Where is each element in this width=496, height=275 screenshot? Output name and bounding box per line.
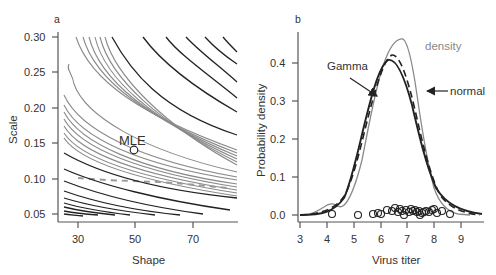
- density-annotation: density: [425, 40, 462, 52]
- mle-label: MLE: [119, 133, 146, 148]
- b-y-ticks: [292, 63, 298, 215]
- b-y-label: Probability density: [255, 83, 267, 177]
- a-contours-inner: [64, 37, 237, 196]
- a-y-label: Scale: [7, 115, 19, 144]
- a-ytick: 0.20: [24, 102, 45, 114]
- a-ytick: 0.25: [24, 66, 45, 78]
- a-contours-outer-upper: [112, 37, 237, 135]
- a-y-ticks: [52, 37, 58, 214]
- b-xtick: 3: [297, 233, 303, 245]
- b-xtick: 5: [351, 233, 357, 245]
- a-x-ticks: [78, 222, 193, 228]
- normal-curve: [300, 55, 480, 215]
- a-xtick: 30: [72, 233, 84, 245]
- panel-b-label: b: [295, 13, 301, 25]
- a-xtick: 50: [129, 233, 141, 245]
- mle-marker: [130, 146, 138, 154]
- b-x-ticks: [300, 222, 461, 228]
- b-xtick: 9: [458, 233, 464, 245]
- b-x-label: Virus titer: [372, 254, 421, 266]
- gamma-curve: [300, 60, 482, 215]
- b-xtick: 8: [431, 233, 437, 245]
- normal-annotation: normal: [450, 85, 485, 97]
- panel-b: b 0.4 0.3 0.2 0.1 0.0 3 4 5 6 7 8 9: [255, 13, 485, 266]
- b-xtick: 6: [378, 233, 384, 245]
- b-ytick: 0.2: [270, 133, 285, 145]
- b-xtick: 7: [404, 233, 410, 245]
- a-ytick: 0.10: [24, 173, 45, 185]
- b-ytick: 0.0: [270, 209, 285, 221]
- figure: a 0.30 0.25 0.20 0.15 0.10 0.05 30 50 70…: [0, 0, 496, 275]
- a-ytick: 0.15: [24, 137, 45, 149]
- panel-a: a 0.30 0.25 0.20 0.15 0.10 0.05 30 50 70…: [7, 13, 238, 266]
- a-contours-outer-lower: [64, 153, 237, 216]
- a-xtick: 70: [187, 233, 199, 245]
- a-ytick: 0.30: [24, 31, 45, 43]
- gamma-annotation: Gamma: [327, 60, 369, 72]
- b-ytick: 0.3: [270, 95, 285, 107]
- b-ytick: 0.4: [270, 57, 285, 69]
- panel-a-label: a: [54, 13, 60, 25]
- a-ytick: 0.05: [24, 208, 45, 220]
- b-ytick: 0.1: [270, 171, 285, 183]
- gamma-arrow: [350, 78, 377, 96]
- observation-points: [329, 205, 454, 219]
- b-xtick: 4: [324, 233, 330, 245]
- a-x-label: Shape: [132, 254, 165, 266]
